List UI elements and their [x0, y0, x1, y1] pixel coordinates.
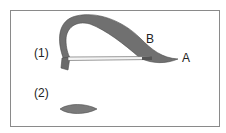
label-point-a: A — [182, 52, 190, 64]
lens-shape — [60, 105, 97, 114]
straight-strip-shape — [68, 57, 150, 61]
label-part-1: (1) — [34, 47, 49, 59]
label-part-2: (2) — [34, 87, 49, 99]
diagram-canvas — [0, 0, 226, 133]
curved-ribbon-shape — [60, 15, 178, 63]
strip-joint-shape — [142, 57, 152, 61]
label-point-b: B — [146, 33, 154, 45]
